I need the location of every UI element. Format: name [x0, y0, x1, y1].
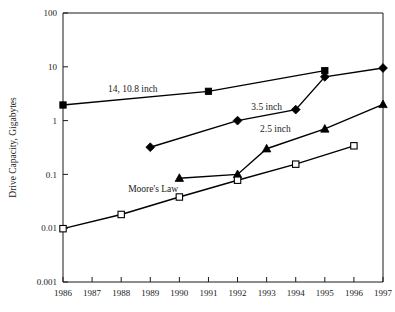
chart-figure: 1001010.10.010.001 198619871988198919901…	[0, 0, 395, 312]
x-tick-label: 1986	[54, 288, 73, 298]
data-point-0-1	[205, 88, 211, 94]
data-point-3-3	[234, 177, 240, 183]
y-tick-label: 100	[44, 8, 58, 18]
data-point-3-0	[60, 225, 66, 231]
plot-frame	[63, 13, 383, 282]
x-tick-label: 1993	[258, 288, 277, 298]
x-tick-label: 1989	[141, 288, 160, 298]
data-point-2-4	[379, 100, 387, 108]
series-line-0	[63, 71, 325, 105]
x-tick-label: 1994	[287, 288, 306, 298]
data-point-1-0	[146, 143, 155, 152]
y-tick-label: 1	[53, 116, 58, 126]
y-tick-label: 0.001	[37, 277, 57, 287]
data-point-1-4	[379, 64, 388, 73]
y-tick-label: 10	[48, 62, 58, 72]
data-point-0-0	[60, 102, 66, 108]
y-axis-title: Drive Capacity, Gigabytes	[8, 97, 18, 198]
series-line-3	[63, 146, 354, 229]
series-annotation-3: Moore's Law	[128, 184, 178, 194]
y-tick-label: 0.01	[41, 223, 57, 233]
x-axis-tick-labels: 1986198719881989199019911992199319941995…	[54, 288, 393, 298]
data-point-3-2	[176, 194, 182, 200]
y-axis-tick-labels: 1001010.10.010.001	[37, 8, 58, 287]
data-point-3-1	[118, 211, 124, 217]
x-tick-label: 1988	[112, 288, 131, 298]
series-line-2	[179, 104, 383, 178]
series-annotation-1: 3.5 inch	[251, 102, 282, 112]
axes	[63, 13, 383, 282]
axis-ticks	[63, 13, 383, 282]
x-tick-label: 1992	[229, 288, 247, 298]
series-annotation-2: 2.5 inch	[260, 124, 291, 134]
x-tick-label: 1997	[374, 288, 393, 298]
data-point-3-4	[293, 161, 299, 167]
series-annotation-0: 14, 10.8 inch	[108, 84, 158, 94]
data-point-3-5	[351, 143, 357, 149]
x-tick-label: 1987	[83, 288, 102, 298]
x-tick-label: 1995	[316, 288, 335, 298]
y-axis-title-text: Drive Capacity, Gigabytes	[8, 97, 18, 198]
x-tick-label: 1996	[345, 288, 364, 298]
x-tick-label: 1990	[170, 288, 189, 298]
x-tick-label: 1991	[199, 288, 217, 298]
y-tick-label: 0.1	[46, 170, 57, 180]
drive-capacity-line-chart: 1001010.10.010.001 198619871988198919901…	[0, 0, 395, 312]
data-point-1-1	[233, 116, 242, 125]
